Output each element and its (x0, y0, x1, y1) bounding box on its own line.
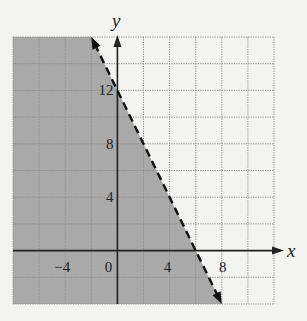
y-tick-label: 12 (98, 82, 113, 98)
x-axis-label: x (286, 240, 296, 261)
x-tick-label: 8 (219, 259, 227, 275)
y-tick-label: 4 (106, 189, 114, 205)
y-tick-label: 8 (106, 136, 114, 152)
x-tick-label: −4 (54, 259, 70, 275)
x-tick-label: 0 (105, 259, 113, 275)
x-tick-label: 4 (164, 259, 172, 275)
line-arrow-top-icon (91, 37, 100, 50)
y-axis-label: y (110, 10, 121, 31)
x-axis-arrow-icon (272, 247, 284, 255)
inequality-chart: −40484812 x y (0, 0, 307, 321)
